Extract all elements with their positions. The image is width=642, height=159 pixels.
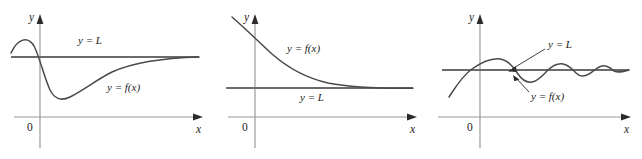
y-axis-arrow-icon [252, 14, 259, 24]
x-axis-arrow-icon [621, 113, 631, 120]
y-axis-label: y [468, 11, 475, 24]
limit-label: y = L [547, 38, 572, 50]
x-axis-arrow-icon [407, 113, 417, 120]
function-curve [11, 40, 199, 99]
limit-label: y = L [299, 91, 324, 103]
panel-left: y = L y = f(x) 0 x y [0, 0, 214, 159]
panel-middle: y = f(x) y = L 0 x y [214, 0, 428, 159]
x-axis-label: x [623, 123, 630, 135]
function-label: y = f(x) [286, 42, 320, 55]
y-axis-label: y [243, 11, 250, 24]
limit-label: y = L [77, 34, 102, 46]
y-axis-arrow-icon [37, 14, 44, 24]
function-curve [232, 17, 413, 88]
asymptote-figure: y = L y = f(x) 0 x y y = f(x) y = L 0 x … [0, 0, 642, 159]
origin-label: 0 [27, 121, 33, 133]
x-axis-label: x [195, 123, 202, 135]
y-axis-label: y [28, 11, 35, 24]
panel-right: y = L y = f(x) 0 x y [428, 0, 642, 159]
y-axis-arrow-icon [477, 14, 484, 24]
limit-leader-line [512, 49, 545, 69]
x-axis-arrow-icon [193, 113, 203, 120]
origin-label: 0 [467, 121, 473, 133]
function-label: y = f(x) [530, 90, 564, 103]
function-label: y = f(x) [106, 81, 140, 94]
origin-label: 0 [242, 121, 248, 133]
x-axis-label: x [409, 123, 416, 135]
